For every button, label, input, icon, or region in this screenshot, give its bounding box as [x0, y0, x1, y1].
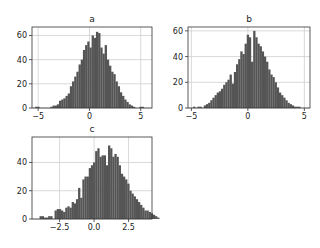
histogram-bar [94, 38, 96, 108]
histogram-bar [76, 72, 78, 108]
histogram-bar [227, 80, 229, 108]
histogram-bar [104, 155, 106, 219]
histogram-bar [63, 98, 65, 108]
x-tick-label: 2.5 [122, 223, 135, 232]
histogram-bar [266, 62, 268, 108]
histogram-bar [215, 95, 217, 108]
histogram-bar [72, 81, 74, 108]
subplot-b: −5050204060b [173, 14, 310, 121]
histogram-bar [97, 148, 99, 219]
histogram-bar [102, 54, 104, 108]
histogram-bar [63, 212, 65, 219]
histogram-bar [106, 165, 108, 219]
histogram-bar [81, 60, 83, 108]
histogram-bar [251, 62, 253, 108]
histogram-bar [210, 100, 212, 108]
histogram-bar [275, 82, 277, 108]
histogram-bar [281, 95, 283, 108]
histogram-bar [114, 154, 116, 219]
y-tick-label: 0 [22, 104, 27, 113]
histogram-bar [142, 208, 144, 219]
y-tick-label: 60 [17, 31, 27, 40]
histogram-bar [79, 64, 81, 108]
histogram-bar [277, 87, 279, 108]
histogram-bar [42, 216, 44, 219]
histogram-bar [240, 51, 242, 108]
histogram-bar [82, 179, 84, 219]
histogram-bar [124, 100, 126, 108]
histogram-bar [61, 100, 63, 108]
histogram-bar [110, 148, 112, 219]
x-tick-label: −2.5 [50, 223, 69, 232]
histogram-bar [76, 199, 78, 219]
histogram-bar [283, 98, 285, 108]
histogram-bar [105, 45, 107, 108]
histogram-bar [91, 165, 93, 219]
histogram-bar [127, 184, 129, 219]
x-tick-label: −5 [32, 112, 44, 121]
histogram-bar [260, 46, 262, 108]
histogram-bar [144, 211, 146, 219]
histogram-bar [149, 212, 151, 219]
histogram-bar [272, 77, 274, 108]
x-tick-label: 0.0 [88, 223, 101, 232]
subplot-title: a [89, 14, 95, 24]
histogram-bar [70, 208, 72, 219]
histogram-bar [85, 45, 87, 108]
histogram-bar [242, 54, 244, 108]
histogram-bar [262, 51, 264, 108]
y-tick-label: 60 [173, 27, 183, 36]
histogram-bar [119, 165, 121, 219]
histogram-bar [83, 50, 85, 108]
histogram-figure: −5050204060a −5050204060b −2.50.02.50204… [0, 0, 320, 248]
y-tick-label: 40 [17, 56, 27, 65]
histogram-bar [288, 103, 290, 108]
histogram-bar [129, 104, 131, 108]
subplot-c: −2.50.02.502040c [17, 124, 160, 232]
histogram-bar [234, 72, 236, 108]
histogram-bar [89, 48, 91, 108]
histogram-bar [100, 48, 102, 108]
histogram-bar [221, 89, 223, 108]
histogram-bar [157, 218, 159, 219]
histogram-bar [48, 216, 50, 219]
histogram-bar [225, 82, 227, 108]
x-tick-label: 5 [138, 112, 143, 121]
histogram-bar [78, 188, 80, 219]
y-tick-label: 0 [22, 215, 27, 224]
histogram-bar [257, 44, 259, 108]
histogram-bar [279, 93, 281, 108]
histogram-bar [264, 57, 266, 108]
y-tick-label: 20 [17, 187, 27, 196]
histogram-bar [80, 198, 82, 219]
histogram-bar [122, 96, 124, 108]
histogram-bar [134, 196, 136, 219]
histogram-bar [107, 60, 109, 108]
histogram-bar [232, 84, 234, 108]
histogram-bar [74, 77, 76, 108]
histogram-bar [87, 177, 89, 219]
histogram-bar [84, 177, 86, 219]
histogram-bar [99, 157, 101, 219]
histogram-bar [268, 69, 270, 108]
histogram-bar [238, 59, 240, 108]
histogram-bar [70, 86, 72, 108]
histogram-bar [140, 205, 142, 219]
subplot-a: −5050204060a [17, 14, 152, 121]
x-tick-label: 0 [87, 112, 92, 121]
histogram-bar [270, 75, 272, 108]
histogram-bar [146, 211, 148, 219]
subplot-title: c [90, 124, 95, 134]
histogram-bar [217, 93, 219, 108]
histogram-bar [120, 92, 122, 108]
histogram-bar [212, 98, 214, 108]
histogram-bar [153, 215, 155, 219]
histogram-bar [219, 91, 221, 108]
histogram-bar [255, 37, 257, 108]
histogram-bar [55, 211, 57, 219]
x-tick-label: 0 [245, 112, 250, 121]
histogram-bar [126, 102, 128, 108]
histogram-bar [92, 35, 94, 108]
histogram-bar [57, 104, 59, 108]
histogram-bar [230, 75, 232, 108]
